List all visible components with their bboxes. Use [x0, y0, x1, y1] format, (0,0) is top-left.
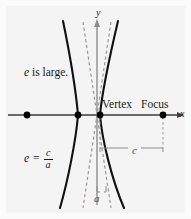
point-right-focus: [160, 112, 167, 119]
point-left-focus: [24, 112, 31, 119]
formula-equals: =: [32, 153, 41, 165]
formula-numerator: c: [44, 148, 52, 159]
hyperbola-figure: e is large. Vertex Focus x y c a e = c a: [0, 0, 191, 219]
focus-label: Focus: [141, 99, 168, 111]
eccentricity-note: e is large.: [24, 67, 68, 79]
x-axis-label: x: [180, 109, 184, 119]
point-right-vertex: [97, 112, 104, 119]
formula-denominator: a: [44, 159, 53, 171]
segment-c-label: c: [132, 145, 137, 156]
eccentricity-formula: e = c a: [24, 148, 53, 170]
eccentricity-note-text: is large.: [29, 66, 68, 78]
segment-a-label: a: [94, 193, 100, 204]
point-left-vertex: [75, 112, 82, 119]
formula-fraction: c a: [44, 148, 53, 170]
formula-symbol-e: e: [24, 153, 29, 165]
y-axis-label: y: [96, 8, 100, 18]
vertex-label: Vertex: [102, 99, 132, 111]
